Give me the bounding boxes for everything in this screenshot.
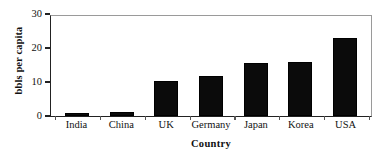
bar-cell [322,16,367,116]
bar-cell [100,16,145,116]
bar-usa[interactable] [333,38,357,116]
bars-container [51,16,371,116]
bar-cell [233,16,278,116]
x-axis-tick-label-china: China [99,120,144,131]
x-axis-title: Country [50,138,372,149]
x-axis-tick-label-germany: Germany [189,120,234,131]
x-axis-tick-labels: IndiaChinaUKGermanyJapanKoreaUSA [50,120,372,131]
y-axis-tick-mark [45,47,50,48]
bar-chart: bbls per capita 0102030 IndiaChinaUKGerm… [0,0,390,161]
y-axis-title: bbls per capita [13,6,24,116]
bar-japan[interactable] [244,63,268,116]
y-axis-tick-mark [45,115,50,116]
y-axis-tick-label: 0 [37,110,45,121]
y-axis-tick-label: 20 [32,42,46,53]
bar-cell [189,16,234,116]
x-axis-tick-label-korea: Korea [278,120,323,131]
x-axis-tick-label-usa: USA [323,120,368,131]
bar-cell [55,16,100,116]
y-axis-tick-mark [45,81,50,82]
y-axis-tick-label: 30 [32,8,46,19]
bar-germany[interactable] [199,76,223,116]
bar-korea[interactable] [288,62,312,116]
bar-cell [144,16,189,116]
y-axis-tick-mark [45,13,50,14]
y-axis-tick-label: 10 [32,76,46,87]
bar-cell [278,16,323,116]
x-axis-tick-label-uk: UK [144,120,189,131]
x-axis-tick-label-india: India [54,120,99,131]
x-axis-tick-label-japan: Japan [233,120,278,131]
plot-area: 0102030 [50,15,372,117]
bar-india[interactable] [65,113,89,116]
bar-china[interactable] [110,112,134,116]
bar-uk[interactable] [154,81,178,116]
